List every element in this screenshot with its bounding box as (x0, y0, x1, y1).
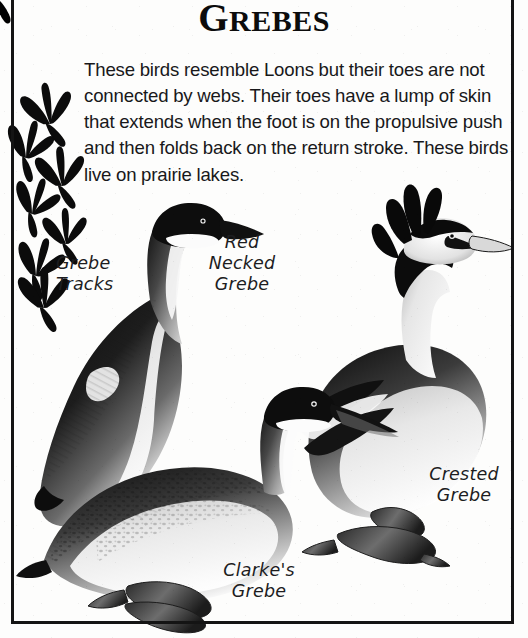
label-grebe-tracks: Grebe Tracks (56, 253, 142, 295)
field-guide-page: GREBES These birds resemble Loons but th… (0, 0, 528, 638)
crested-grebe-feet (302, 508, 450, 567)
crested-grebe-figure (300, 185, 514, 567)
intro-paragraph: These birds resemble Loons but their toe… (84, 57, 516, 188)
label-clarkes-grebe: Clarke's Grebe (204, 560, 314, 602)
label-red-necked-grebe: Red Necked Grebe (189, 232, 295, 295)
page-title-initial: G (198, 0, 229, 39)
label-crested-grebe: Crested Grebe (414, 464, 514, 506)
clarkes-grebe-feet (88, 582, 211, 633)
page-title: GREBES (0, 0, 528, 39)
page-title-rest: REBES (229, 4, 330, 37)
